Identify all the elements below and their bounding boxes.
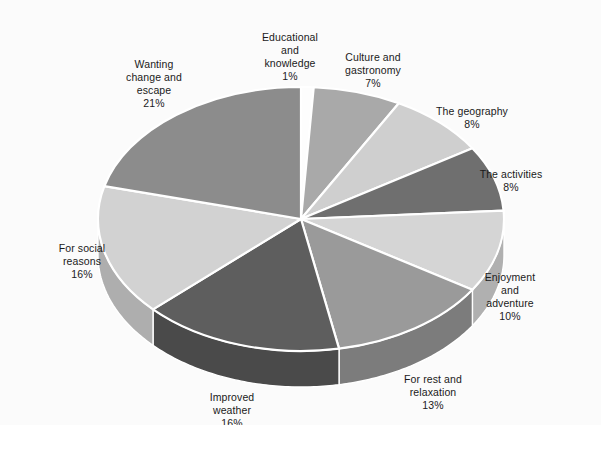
slice-label-enjoyment-pct: 10% — [474, 310, 546, 323]
slice-label-wanting-change: Wanting change and escape 21% — [110, 45, 198, 123]
slice-label-improved-name: Improved weather — [210, 391, 255, 416]
slice-label-culture-pct: 7% — [330, 77, 416, 90]
slice-label-social-pct: 16% — [42, 268, 122, 281]
slice-label-wanting-name: Wanting change and escape — [126, 58, 182, 96]
slice-label-rest-and-relaxation: For rest and relaxation 13% — [386, 360, 480, 425]
slice-label-rest-pct: 13% — [386, 399, 480, 412]
slice-label-enjoyment-name: Enjoyment and adventure — [485, 271, 536, 309]
slice-label-activities: The activities 8% — [468, 155, 554, 207]
figure-page: Educational and knowledge 1% Culture and… — [0, 0, 601, 452]
slice-label-geography-name: The geography — [436, 105, 508, 117]
pie-chart-area: Educational and knowledge 1% Culture and… — [0, 0, 601, 425]
slice-label-activities-pct: 8% — [468, 181, 554, 194]
slice-label-culture-name: Culture and gastronomy — [345, 51, 401, 76]
slice-label-geography-pct: 8% — [418, 118, 526, 131]
slice-label-educational-pct: 1% — [244, 70, 336, 83]
slice-label-geography: The geography 8% — [418, 92, 526, 144]
slice-label-educational-name: Educational and knowledge — [262, 31, 318, 69]
slice-label-enjoyment: Enjoyment and adventure 10% — [474, 258, 546, 336]
slice-label-social-reasons: For social reasons 16% — [42, 229, 122, 294]
slice-label-culture: Culture and gastronomy 7% — [330, 38, 416, 103]
figure-caption-bar: Figure 3.3 The range of motivators for o… — [0, 425, 601, 452]
slice-label-wanting-pct: 21% — [110, 97, 198, 110]
slice-label-rest-name: For rest and relaxation — [404, 373, 462, 398]
slice-label-social-name: For social reasons — [59, 242, 106, 267]
slice-label-educational: Educational and knowledge 1% — [244, 18, 336, 96]
slice-label-activities-name: The activities — [480, 168, 543, 180]
